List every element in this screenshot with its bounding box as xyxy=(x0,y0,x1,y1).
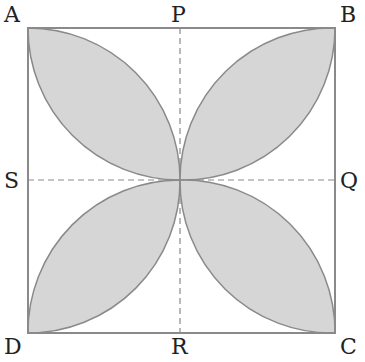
petal-top-left xyxy=(28,28,180,180)
label-c: C xyxy=(340,336,357,358)
label-b: B xyxy=(340,4,356,26)
diagram-canvas xyxy=(0,0,365,362)
petal-bottom-right xyxy=(180,180,335,333)
label-r: R xyxy=(171,336,188,358)
petal-bottom-left xyxy=(28,180,180,333)
label-a: A xyxy=(4,4,20,26)
petal-top-right xyxy=(180,28,335,180)
label-s: S xyxy=(4,170,19,192)
label-d: D xyxy=(4,336,22,358)
label-p: P xyxy=(171,4,186,26)
label-q: Q xyxy=(340,170,358,192)
